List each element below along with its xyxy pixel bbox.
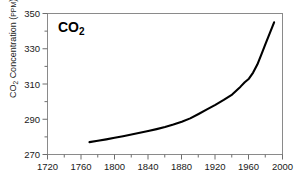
series-annotation-base: CO xyxy=(58,19,79,35)
x-tick-label-1720: 1720 xyxy=(37,161,58,172)
x-tick-label-1800: 1800 xyxy=(104,161,125,172)
x-tick-label-1880: 1880 xyxy=(171,161,192,172)
co2-concentration-chart: CO2 Concentration (PPM) 270 290 310 330 … xyxy=(0,0,306,179)
y-tick-label-270: 270 xyxy=(24,149,40,160)
x-tick-label-1960: 1960 xyxy=(238,161,259,172)
y-axis-tick-labels: 270 290 310 330 350 xyxy=(24,8,40,160)
y-axis-title-unit: PPM xyxy=(10,1,17,16)
co2-data-line xyxy=(89,22,274,142)
y-axis-title-rest: Concentration ( xyxy=(8,17,18,81)
y-axis-major-ticks xyxy=(43,14,48,155)
y-tick-label-330: 330 xyxy=(24,43,40,54)
svg-text:CO2 Concentration (PPM): CO2 Concentration (PPM) xyxy=(8,0,19,98)
x-tick-label-1840: 1840 xyxy=(137,161,158,172)
y-tick-label-290: 290 xyxy=(24,114,40,125)
x-tick-label-1760: 1760 xyxy=(70,161,91,172)
chart-canvas: CO2 Concentration (PPM) 270 290 310 330 … xyxy=(0,0,306,179)
y-tick-label-310: 310 xyxy=(24,79,40,90)
y-axis-title: CO2 Concentration (PPM) xyxy=(8,0,19,98)
y-axis-title-close: ) xyxy=(8,0,18,2)
series-annotation-sub: 2 xyxy=(79,26,85,37)
y-tick-label-350: 350 xyxy=(24,8,40,19)
x-tick-label-1920: 1920 xyxy=(204,161,225,172)
y-axis-title-base: CO xyxy=(8,85,18,99)
x-axis-tick-labels: 1720 1760 1800 1840 1880 1920 1960 2000 xyxy=(37,161,293,172)
series-annotation: CO2 xyxy=(58,19,85,37)
x-tick-label-2000: 2000 xyxy=(272,161,293,172)
